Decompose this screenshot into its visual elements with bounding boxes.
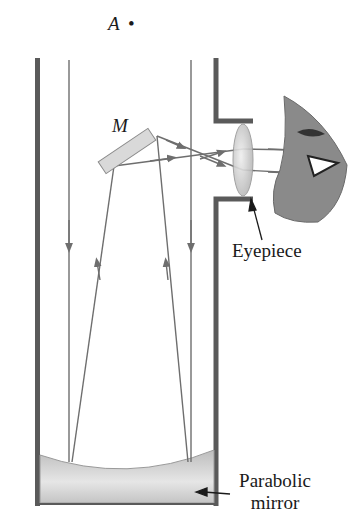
telescope-diagram: A • M Eyepiece Parabolic mirror xyxy=(0,0,364,528)
parabolic-mirror-label-line2: mirror xyxy=(234,492,316,514)
observer-eye xyxy=(273,96,347,222)
tube-left-wall xyxy=(35,58,40,506)
parabolic-mirror-label-line1: Parabolic xyxy=(234,470,316,492)
reflected-rays xyxy=(72,136,188,462)
incoming-rays xyxy=(69,60,191,462)
eyepiece-lens xyxy=(233,124,253,196)
eyepiece-label: Eyepiece xyxy=(232,240,302,262)
point-a-dot: • xyxy=(128,13,135,34)
tube-right-wall xyxy=(216,58,253,506)
point-a-letter: A xyxy=(108,13,119,34)
parabolic-mirror-label: Parabolic mirror xyxy=(234,470,316,514)
point-a-label: A • xyxy=(108,13,135,35)
flat-mirror-label: M xyxy=(112,115,128,137)
diagram-canvas xyxy=(0,0,364,528)
eyepiece-pointer xyxy=(249,199,262,240)
